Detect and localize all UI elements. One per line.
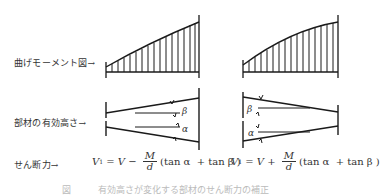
formula-equals: = xyxy=(103,156,118,167)
right-depth-diagram xyxy=(243,92,338,148)
fraction-denominator: d xyxy=(147,162,153,172)
formula-sign: + xyxy=(264,156,279,167)
fraction-denominator: d xyxy=(286,162,292,172)
figure-caption: 図 有効高さが変化する部材のせん断力の補正 xyxy=(62,183,269,196)
formula-v: V xyxy=(257,156,264,167)
formula-fraction: M d xyxy=(282,151,296,172)
formula-fraction: M d xyxy=(143,151,157,172)
right-beta-label: β xyxy=(246,104,252,114)
right-moment-diagram xyxy=(243,15,338,78)
formula-v: V xyxy=(118,156,125,167)
formula-sign: − xyxy=(125,156,140,167)
formula-lhs: V xyxy=(92,156,99,167)
left-alpha-label: α xyxy=(182,124,188,134)
right-alpha-label: α xyxy=(248,128,254,138)
left-beta-label: β xyxy=(181,106,187,116)
right-shear-formula: V1 = V + M d (tan α + tan β ) xyxy=(231,151,380,172)
formula-equals: = xyxy=(242,156,257,167)
formula-tail: (tan α + tan β ) xyxy=(160,156,241,167)
left-moment-diagram xyxy=(106,15,199,78)
left-depth-diagram xyxy=(106,88,199,150)
formula-lhs: V xyxy=(231,156,238,167)
left-shear-formula: V1 = V − M d (tan α + tan β ) xyxy=(92,151,241,172)
formula-tail: (tan α + tan β ) xyxy=(299,156,380,167)
